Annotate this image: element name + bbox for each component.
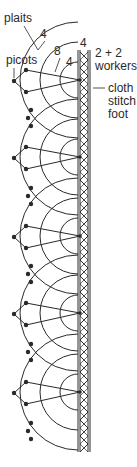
foot-top-count-label: 4 xyxy=(80,36,87,50)
foot-label-foot: foot xyxy=(108,107,129,121)
lace-pattern-diagram: plaits 4 picots 8 4 4 2 + 2 workers clot… xyxy=(0,0,137,467)
workers-label: workers xyxy=(94,59,137,73)
fan-inner-count-label: 4 xyxy=(66,55,73,69)
workers-count-label: 2 + 2 xyxy=(95,46,122,60)
foot-label-stitch: stitch xyxy=(108,94,136,108)
plaits-count-label: 4 xyxy=(40,27,47,41)
foot-label-cloth: cloth xyxy=(108,81,133,95)
plaits-label: plaits xyxy=(4,11,32,25)
